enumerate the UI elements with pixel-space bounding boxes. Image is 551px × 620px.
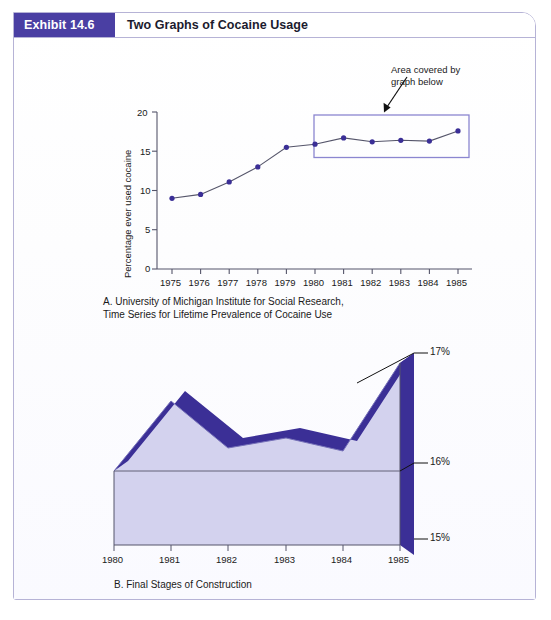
exhibit-title: Two Graphs of Cocaine Usage	[127, 13, 308, 37]
chart-a-x-ticks	[172, 269, 458, 274]
chart-a-y-tick-0: 0	[145, 263, 150, 274]
chart-a-x-tick-1985: 1985	[446, 277, 467, 288]
chart-b-area-fill	[114, 363, 400, 545]
chart-b-y-label-15: 15%	[430, 532, 450, 543]
chart-a-x-tick-1976: 1976	[189, 277, 210, 288]
chart-b-container: 17% 16% 15% 1980 1981 1982 1983 1984 198…	[14, 323, 535, 601]
chart-b-x-ticks	[114, 545, 400, 551]
chart-b-x-tick-1982: 1982	[216, 554, 237, 565]
chart-a-x-tick-1980: 1980	[303, 277, 324, 288]
chart-b-y-label-17: 17%	[430, 346, 450, 357]
exhibit-card: Exhibit 14.6 Two Graphs of Cocaine Usage…	[13, 12, 536, 600]
chart-b-x-tick-1983: 1983	[274, 554, 295, 565]
chart-a-x-tick-1981: 1981	[332, 277, 353, 288]
exhibit-page: Exhibit 14.6 Two Graphs of Cocaine Usage…	[0, 0, 551, 620]
chart-b-x-tick-1981: 1981	[159, 554, 180, 565]
chart-b-x-tick-1980: 1980	[102, 554, 123, 565]
chart-a-series-line	[172, 131, 458, 198]
chart-b-y-label-16: 16%	[430, 456, 450, 467]
chart-a-caption: A. University of Michigan Institute for …	[103, 295, 344, 321]
chart-a-x-tick-1977: 1977	[217, 277, 238, 288]
chart-a-highlight-box	[314, 115, 469, 158]
chart-b-x-tick-1984: 1984	[331, 554, 352, 565]
chart-a-x-tick-1982: 1982	[360, 277, 381, 288]
exhibit-number-badge: Exhibit 14.6	[14, 13, 115, 37]
chart-a-markers	[169, 128, 460, 201]
chart-a-y-tick-5: 5	[145, 224, 150, 235]
chart-a-x-tick-1975: 1975	[160, 277, 181, 288]
chart-b-x-tick-1985: 1985	[388, 554, 409, 565]
chart-a-y-axis-label: Percentage ever used cocaine	[122, 150, 133, 278]
chart-a-annotation-text: Area covered by graph below	[391, 64, 460, 88]
chart-a-y-tick-15: 15	[140, 146, 151, 157]
chart-a-container: Percentage ever used cocaine	[14, 38, 535, 328]
chart-a-x-tick-1979: 1979	[274, 277, 295, 288]
chart-a-x-tick-1984: 1984	[417, 277, 438, 288]
exhibit-header: Exhibit 14.6 Two Graphs of Cocaine Usage	[14, 13, 535, 38]
chart-a-y-tick-20: 20	[137, 107, 148, 118]
chart-a-y-ticks	[152, 112, 157, 269]
chart-b-caption: B. Final Stages of Construction	[114, 578, 252, 591]
chart-a-x-tick-1983: 1983	[389, 277, 410, 288]
chart-b-right-wall	[400, 353, 414, 555]
chart-a-y-tick-10: 10	[140, 185, 151, 196]
chart-a-x-tick-1978: 1978	[246, 277, 267, 288]
